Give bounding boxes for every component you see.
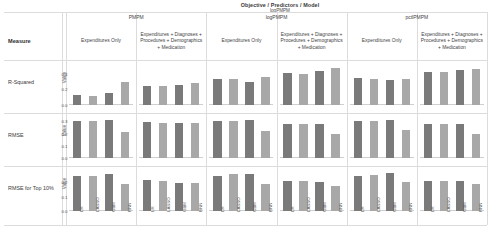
bar-0-2-0 [213, 79, 221, 105]
bar-0-2-2 [245, 82, 253, 105]
column-header-3: Expenditures + Diagnoses + Procedures + … [277, 23, 347, 60]
objective-group-label-0: PMPM [66, 14, 206, 22]
panel-2-5: LRLASSOGBMRNN [420, 172, 484, 211]
bar-1-0-3 [121, 132, 129, 158]
bar-1-4-0 [354, 121, 362, 158]
bar-1-4-1 [370, 121, 378, 158]
bar-1-1-2 [175, 123, 183, 158]
y-tick-0-1: 0.2 [61, 87, 67, 92]
bar-1-2-1 [229, 121, 237, 158]
bar-0-2-3 [261, 77, 269, 105]
x-tick-0-3: RNN [127, 202, 132, 212]
x-tick-1-1: LASSO [166, 197, 171, 212]
column-header-1: Expenditures + Diagnoses + Procedures + … [136, 23, 206, 60]
bar-0-0-0 [73, 95, 81, 105]
x-tick-1-2: GBM [182, 202, 187, 212]
bar-0-5-2 [456, 70, 464, 105]
x-tick-2-2: GBM [252, 202, 257, 212]
grid-hline [4, 60, 487, 61]
bar-1-5-0 [424, 124, 432, 158]
bar-1-3-3 [331, 134, 339, 158]
bar-1-0-2 [105, 120, 113, 158]
bar-0-4-3 [402, 79, 410, 105]
measure-row-label-2: RMSE for Top 10% [8, 185, 60, 192]
bar-1-0-0 [73, 121, 81, 158]
bar-0-1-3 [191, 83, 199, 105]
measure-row-label-1: RMSE [8, 132, 60, 139]
bar-1-2-3 [261, 131, 269, 158]
panel-1-5 [420, 119, 484, 158]
y-tick-1-0: 0.0 [61, 156, 67, 161]
panel-2-1: LRLASSOGBMRNN [139, 172, 203, 211]
objective-group-label-2: pctlPMPM [347, 14, 487, 22]
x-tick-3-3: RNN [338, 202, 343, 212]
x-tick-2-0: LR [220, 206, 225, 212]
bar-1-0-1 [89, 121, 97, 158]
x-tick-4-3: RNN [408, 202, 413, 212]
grid-hline [4, 225, 487, 226]
objective-group-label-1: logPMPM [206, 14, 346, 22]
column-header-2: Expenditures Only [206, 23, 276, 60]
y-tick-1-1: 0.1 [61, 143, 67, 148]
panel-1-0: 0.00.10.20.3 [69, 119, 133, 158]
x-tick-1-0: LR [150, 206, 155, 212]
x-tick-5-0: LR [430, 206, 435, 212]
grid-hline [4, 166, 487, 167]
bar-0-4-2 [386, 80, 394, 105]
bar-0-0-2 [105, 93, 113, 105]
panel-0-0: 0.00.20.4 [69, 66, 133, 105]
bar-1-2-0 [213, 121, 221, 158]
y-tick-2-2: 0.2 [61, 180, 67, 185]
bar-0-2-1 [229, 79, 237, 105]
y-tick-0-0: 0.0 [61, 103, 67, 108]
x-tick-0-2: GBM [111, 202, 116, 212]
panel-0-2 [209, 66, 273, 105]
x-tick-4-2: GBM [392, 202, 397, 212]
y-tick-2-1: 0.1 [61, 194, 67, 199]
x-tick-5-1: LASSO [446, 197, 451, 212]
bar-1-4-3 [402, 130, 410, 158]
panel-0-1 [139, 66, 203, 105]
bar-1-1-3 [191, 123, 199, 158]
bar-0-1-2 [175, 85, 183, 105]
bar-1-2-2 [245, 120, 253, 158]
bar-0-3-3 [331, 68, 339, 105]
bar-0-0-1 [89, 96, 97, 105]
bar-1-4-2 [386, 120, 394, 158]
grid-hline [4, 12, 487, 13]
x-tick-0-0: LR [79, 206, 84, 212]
bar-0-1-1 [159, 86, 167, 105]
x-tick-5-2: GBM [462, 202, 467, 212]
bar-0-3-0 [283, 73, 291, 105]
bar-0-3-2 [315, 71, 323, 105]
dashboard-root: Objective / Predictors / Model logPMPM M… [0, 0, 489, 247]
bar-0-5-3 [472, 69, 480, 105]
x-tick-3-1: LASSO [306, 197, 311, 212]
x-tick-4-0: LR [360, 206, 365, 212]
bar-1-1-0 [143, 122, 151, 158]
bar-1-3-0 [283, 124, 291, 158]
panel-1-3 [280, 119, 344, 158]
panel-0-5 [420, 66, 484, 105]
panel-2-3: LRLASSOGBMRNN [280, 172, 344, 211]
y-tick-0-2: 0.4 [61, 71, 67, 76]
y-tick-2-0: 0.0 [61, 209, 67, 214]
x-tick-2-1: LASSO [236, 197, 241, 212]
grid-vline [487, 12, 488, 225]
bar-0-0-3 [121, 82, 129, 105]
grid-hline [4, 113, 487, 114]
bar-0-5-1 [440, 72, 448, 105]
column-header-4: Expenditures Only [347, 23, 417, 60]
panel-2-4: LRLASSOGBMRNN [350, 172, 414, 211]
panel-1-2 [209, 119, 273, 158]
panel-0-3 [280, 66, 344, 105]
bar-1-3-1 [299, 124, 307, 158]
y-tick-1-2: 0.2 [61, 131, 67, 136]
bar-0-4-0 [354, 78, 362, 105]
x-tick-4-1: LASSO [376, 197, 381, 212]
column-header-0: Expenditures Only [66, 23, 136, 60]
bar-0-3-1 [299, 74, 307, 105]
x-tick-3-0: LR [290, 206, 295, 212]
measure-column-header: Measure [8, 38, 31, 44]
x-tick-5-3: RNN [478, 202, 483, 212]
